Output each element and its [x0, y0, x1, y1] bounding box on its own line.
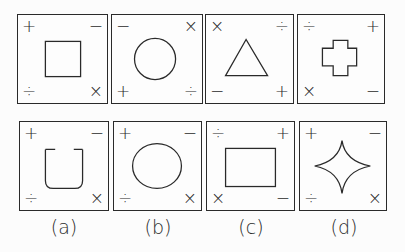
answer-figure-b[interactable]: + − ÷ ×	[113, 121, 202, 211]
minus-symbol: −	[89, 18, 103, 35]
option-label-a[interactable]: (a)	[19, 216, 109, 238]
plus-symbol: +	[118, 125, 132, 142]
divide-symbol: ÷	[118, 190, 132, 207]
problem-figure-4: ÷ + × −	[297, 14, 385, 104]
divide-symbol: ÷	[211, 125, 225, 142]
divide-symbol: ÷	[275, 18, 289, 35]
divide-symbol: ÷	[302, 18, 316, 35]
minus-symbol: −	[210, 83, 224, 100]
problem-figure-3: × ÷ − +	[205, 14, 294, 104]
times-symbol: ×	[210, 18, 224, 35]
minus-symbol: −	[183, 125, 197, 142]
times-symbol: ×	[184, 18, 198, 35]
minus-symbol: −	[366, 83, 380, 100]
times-symbol: ×	[211, 190, 225, 207]
divide-symbol: ÷	[304, 190, 318, 207]
times-symbol: ×	[89, 83, 103, 100]
plus-symbol: +	[304, 125, 318, 142]
plus-symbol: +	[24, 125, 38, 142]
plus-symbol: +	[276, 125, 290, 142]
times-symbol: ×	[368, 190, 382, 207]
option-label-c[interactable]: (c)	[206, 216, 296, 238]
times-symbol: ×	[90, 190, 104, 207]
plus-symbol: +	[275, 83, 289, 100]
answer-figure-a[interactable]: + − ÷ ×	[19, 121, 109, 211]
plus-symbol: +	[116, 83, 130, 100]
option-label-b[interactable]: (b)	[113, 216, 203, 238]
minus-symbol: −	[368, 125, 382, 142]
minus-symbol: −	[90, 125, 104, 142]
problem-figure-1: + − ÷ ×	[17, 14, 108, 104]
plus-symbol: +	[366, 18, 380, 35]
answer-figure-c[interactable]: ÷ + × −	[206, 121, 295, 211]
option-label-d[interactable]: (d)	[299, 216, 389, 238]
problem-figure-2: − × + ÷	[111, 14, 203, 104]
minus-symbol: −	[116, 18, 130, 35]
plus-symbol: +	[22, 18, 36, 35]
times-symbol: ×	[302, 83, 316, 100]
answer-figure-d[interactable]: + − ÷ ×	[299, 121, 387, 211]
divide-symbol: ÷	[22, 83, 36, 100]
times-symbol: ×	[183, 190, 197, 207]
divide-symbol: ÷	[24, 190, 38, 207]
minus-symbol: −	[276, 190, 290, 207]
divide-symbol: ÷	[184, 83, 198, 100]
